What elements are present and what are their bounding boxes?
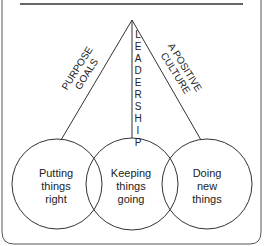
svg-text:Doing: Doing — [193, 167, 222, 179]
circle-label-right: Doing new things — [192, 167, 222, 205]
svg-text:I: I — [137, 125, 140, 136]
svg-text:Putting: Putting — [39, 167, 73, 179]
svg-text:things: things — [41, 180, 71, 192]
svg-text:R: R — [134, 89, 141, 100]
svg-text:D: D — [134, 65, 141, 76]
leadership-diagram: L E A D E R S H I P PURPOSE GOALS A POSI… — [0, 0, 264, 246]
svg-text:things: things — [116, 180, 146, 192]
svg-text:going: going — [118, 193, 145, 205]
svg-text:A: A — [135, 53, 142, 64]
leadership-label: L E A D E R S H I P — [134, 29, 141, 148]
right-branch-label: A POSITIVE CULTURE — [156, 41, 204, 100]
svg-text:E: E — [135, 41, 142, 52]
svg-text:L: L — [135, 29, 141, 40]
svg-text:E: E — [135, 77, 142, 88]
svg-text:H: H — [134, 113, 141, 124]
svg-text:new: new — [197, 180, 217, 192]
svg-text:right: right — [45, 193, 66, 205]
circle-label-center: Keeping things going — [111, 167, 151, 205]
svg-text:P: P — [135, 137, 142, 148]
svg-text:things: things — [192, 193, 222, 205]
circle-label-left: Putting things right — [39, 167, 73, 205]
svg-text:S: S — [135, 101, 142, 112]
svg-text:Keeping: Keeping — [111, 167, 151, 179]
left-branch-label: PURPOSE GOALS — [59, 44, 104, 97]
